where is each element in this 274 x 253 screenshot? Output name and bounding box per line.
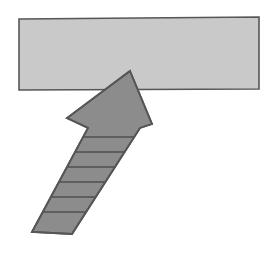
arrow-and-bar-figure: Upward arrow pointing into a horizontal … <box>0 0 274 253</box>
horizontal-bar <box>19 17 259 90</box>
figure-canvas: Upward arrow pointing into a horizontal … <box>0 0 274 253</box>
